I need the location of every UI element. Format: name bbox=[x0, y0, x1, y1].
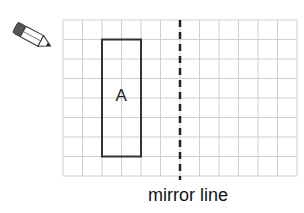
shape-a-label: A bbox=[116, 86, 127, 106]
reflection-diagram: A mirror line bbox=[0, 0, 304, 213]
pencil-icon bbox=[12, 22, 53, 51]
mirror-line-label: mirror line bbox=[148, 185, 228, 206]
grid-canvas bbox=[0, 0, 304, 213]
